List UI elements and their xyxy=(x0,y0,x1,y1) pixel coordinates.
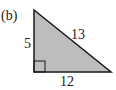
part-label: (b) xyxy=(1,9,17,23)
vertical-leg-label: 5 xyxy=(24,37,31,51)
hypotenuse-label: 13 xyxy=(71,28,85,42)
horizontal-leg-label: 12 xyxy=(60,75,74,89)
right-triangle xyxy=(0,0,116,90)
